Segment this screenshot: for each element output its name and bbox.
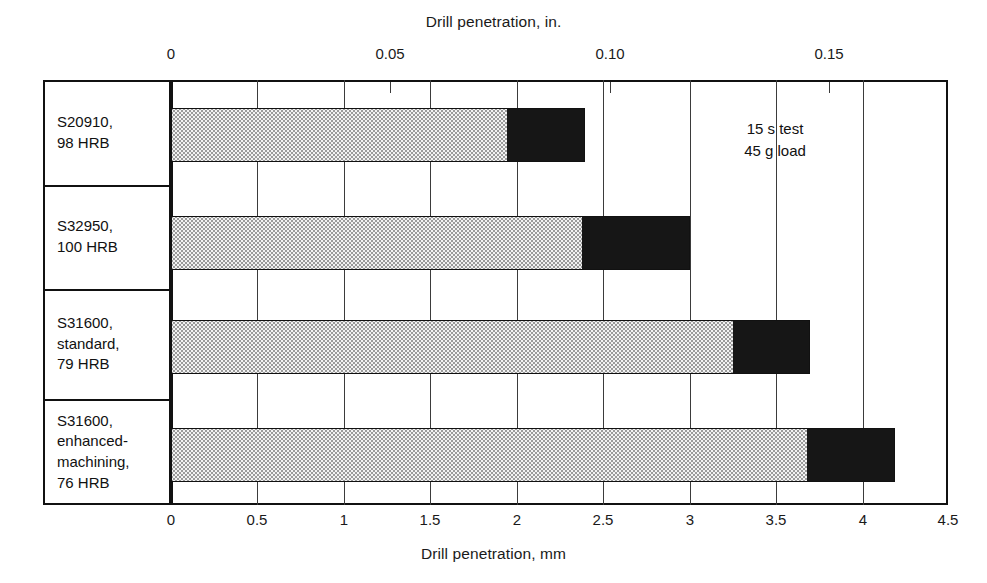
bottom-tick-label: 3: [686, 511, 694, 528]
category-label-text: S31600, enhanced- machining, 76 HRB: [57, 411, 130, 494]
label-row-divider-2: [43, 289, 171, 291]
bar-row-1: [171, 108, 585, 162]
bottom-tick-label: 1.5: [420, 511, 441, 528]
mm-tick-0p5: [257, 493, 258, 504]
bottom-axis-title: Drill penetration, mm: [0, 545, 987, 563]
bottom-tick-label: 2: [513, 511, 521, 528]
bottom-tick-label: 0: [167, 511, 175, 528]
bar-segment-stippled: [171, 216, 582, 270]
bottom-tick-label: 1: [340, 511, 348, 528]
category-label-row-1: S20910, 98 HRB: [43, 80, 171, 185]
bar-segment-stippled: [171, 320, 733, 374]
category-label-text: S20910, 98 HRB: [57, 112, 113, 153]
mm-tick-1p5: [430, 493, 431, 504]
top-tick-label: 0.05: [375, 45, 404, 62]
category-label-row-3: S31600, standard, 79 HRB: [43, 289, 171, 399]
top-tick-label: 0.15: [814, 45, 843, 62]
bar-segment-black: [582, 216, 690, 270]
category-label-text: S31600, standard, 79 HRB: [57, 313, 120, 375]
bar-row-2: [171, 216, 690, 270]
inch-tick-0p10: [610, 82, 611, 93]
mm-tick-3: [690, 493, 691, 504]
bar-segment-stippled: [171, 428, 807, 482]
bottom-tick-label: 4.5: [938, 511, 959, 528]
mm-tick-4: [863, 493, 864, 504]
label-row-divider-3: [43, 399, 171, 401]
bottom-tick-label: 0.5: [247, 511, 268, 528]
bottom-tick-label: 2.5: [593, 511, 614, 528]
chart-figure: Drill penetration, in. 0 0.05 0.10 0.15 …: [0, 0, 987, 583]
category-label-text: S32950, 100 HRB: [57, 216, 118, 257]
top-tick-label: 0.10: [595, 45, 624, 62]
bar-row-4: [171, 428, 895, 482]
bottom-tick-label: 4: [859, 511, 867, 528]
inch-tick-0p15: [829, 82, 830, 93]
category-label-row-4: S31600, enhanced- machining, 76 HRB: [43, 399, 171, 505]
label-row-divider-1: [43, 185, 171, 187]
bar-segment-black: [807, 428, 895, 482]
mm-tick-3p5: [776, 493, 777, 504]
bar-row-3: [171, 320, 810, 374]
mm-tick-1: [344, 493, 345, 504]
mm-tick-2: [517, 493, 518, 504]
bar-segment-black: [507, 108, 585, 162]
category-label-row-2: S32950, 100 HRB: [43, 185, 171, 289]
bar-segment-stippled: [171, 108, 507, 162]
inch-tick-0p05: [390, 82, 391, 93]
bottom-tick-label: 3.5: [766, 511, 787, 528]
top-axis-title: Drill penetration, in.: [0, 13, 987, 31]
mm-tick-2p5: [603, 493, 604, 504]
test-conditions-annotation: 15 s test 45 g load: [700, 118, 850, 162]
bar-segment-black: [733, 320, 810, 374]
top-tick-label: 0: [167, 45, 175, 62]
category-label-column: S20910, 98 HRB S32950, 100 HRB S31600, s…: [43, 80, 171, 505]
